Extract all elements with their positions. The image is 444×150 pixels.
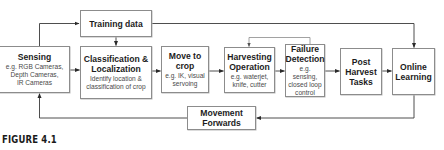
node-sensing: Sensing e.g. RGB Cameras, Depth Cameras,… (0, 46, 70, 93)
node-description: e.g. IK, visual servoing (165, 72, 205, 88)
node-title: Online Learning (395, 62, 431, 82)
node-movement-forwards: Movement Forwards (187, 106, 256, 130)
node-post-harvest-tasks: Post Harvest Tasks (340, 48, 382, 95)
node-title: Training data (89, 19, 142, 29)
node-description: e.g. RGB Cameras, Depth Cameras, IR Came… (6, 63, 64, 87)
edge-sensing-to-training (40, 24, 80, 47)
node-harvesting-operation: Harvesting Operation e.g. waterjet, knif… (224, 47, 275, 93)
node-title: Movement Forwards (200, 108, 243, 128)
node-title: Post Harvest Tasks (345, 57, 377, 87)
node-title: Sensing (18, 52, 51, 62)
node-move-to-crop: Move to crop e.g. IK, visual servoing (161, 46, 209, 93)
node-description: Identify location & classification of cr… (86, 75, 145, 91)
node-description: e.g. sensing, closed loop control (288, 65, 322, 97)
figure-caption: FIGURE 4.1 (2, 134, 57, 145)
node-title: Harvesting Operation (227, 52, 271, 72)
edge-training-to-online (152, 24, 414, 48)
node-failure-detection: Failure Detection e.g. sensing, closed l… (285, 44, 325, 97)
node-classification-localization: Classification & Localization Identify l… (80, 46, 152, 99)
node-training-data: Training data (80, 10, 152, 37)
diagram-canvas: Training data Sensing e.g. RGB Cameras, … (0, 0, 444, 150)
node-online-learning: Online Learning (392, 48, 435, 95)
node-title: Move to crop (169, 51, 201, 71)
node-title: Failure Detection (285, 44, 324, 64)
node-title: Classification & Localization (84, 54, 148, 74)
edge-online-to-movement (257, 95, 415, 118)
node-description: e.g. waterjet, knife, cutter (231, 73, 269, 89)
